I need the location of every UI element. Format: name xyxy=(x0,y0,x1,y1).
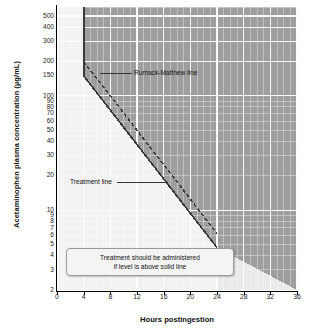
y-tick-label: 10 xyxy=(20,207,54,214)
y-axis-line xyxy=(56,5,57,292)
rumack-matthew-line-label: Rumack-Matthew line xyxy=(134,69,197,76)
y-tick-label: 80 xyxy=(20,104,54,111)
y-tick-label: 30 xyxy=(20,152,54,159)
y-tick-label: 60 xyxy=(20,118,54,125)
treatment-line-leader-line xyxy=(117,182,165,183)
x-tick-label: 12 xyxy=(122,293,152,300)
x-tick-label: 28 xyxy=(229,293,259,300)
x-tick-label: 32 xyxy=(255,293,285,300)
x-tick-label: 8 xyxy=(95,293,125,300)
y-axis-tick-labels: 2345678910203040506070809010015020030040… xyxy=(16,0,54,331)
y-tick-label: 3 xyxy=(20,267,54,274)
y-tick-label: 8 xyxy=(20,218,54,225)
x-tick-label: 16 xyxy=(149,293,179,300)
y-tick-label: 150 xyxy=(20,72,54,79)
y-tick-label: 5 xyxy=(20,241,54,248)
x-tick-label: 36 xyxy=(282,293,310,300)
y-tick-label: 4 xyxy=(20,252,54,259)
treatment-note-line-2: if level is above solid line xyxy=(114,262,187,271)
y-tick-label: 6 xyxy=(20,232,54,239)
treatment-note-box: Treatment should be administered if leve… xyxy=(66,248,234,276)
y-tick-label: 50 xyxy=(20,127,54,134)
treatment-line-label: Treatment line xyxy=(70,178,112,185)
rumack-matthew-leader-line xyxy=(100,73,132,74)
y-tick-label: 40 xyxy=(20,138,54,145)
nomogram-chart: Acetaminophen plasma concentration (µg/m… xyxy=(0,0,310,331)
x-tick-label: 0 xyxy=(42,293,72,300)
x-tick-label: 4 xyxy=(69,293,99,300)
x-tick-label: 24 xyxy=(202,293,232,300)
y-tick-label: 500 xyxy=(20,13,54,20)
y-tick-label: 70 xyxy=(20,110,54,117)
y-tick-label: 100 xyxy=(20,93,54,100)
y-tick-label: 7 xyxy=(20,225,54,232)
y-tick-label: 200 xyxy=(20,58,54,65)
x-tick-label: 20 xyxy=(175,293,205,300)
treatment-note-line-1: Treatment should be administered xyxy=(100,253,200,262)
y-tick-label: 20 xyxy=(20,172,54,179)
x-axis-title: Hours postingestion xyxy=(57,315,297,324)
x-axis-line xyxy=(56,291,298,292)
y-tick-label: 400 xyxy=(20,24,54,31)
y-tick-label: 300 xyxy=(20,38,54,45)
